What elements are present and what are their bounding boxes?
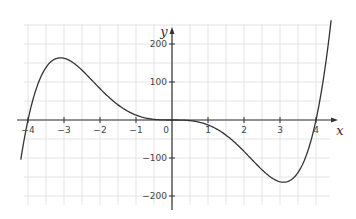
x-tick-label: −3 xyxy=(57,125,70,135)
grid-lines xyxy=(24,24,330,205)
x-tick-label: 1 xyxy=(205,125,211,135)
x-tick-label: 2 xyxy=(241,125,247,135)
x-tick-label: −4 xyxy=(21,125,35,135)
axes xyxy=(17,27,338,210)
y-tick-label: 100 xyxy=(150,77,167,87)
x-tick-label: 0 xyxy=(163,125,169,135)
x-tick-label: −2 xyxy=(93,125,106,135)
y-axis-label: y xyxy=(159,24,168,39)
y-tick-label: 200 xyxy=(150,39,167,49)
function-graph: −4−3−2−101234−200−100100200 x y xyxy=(0,0,356,219)
x-axis-label: x xyxy=(336,123,344,138)
y-tick-label: −200 xyxy=(142,191,167,201)
y-tick-label: −100 xyxy=(142,153,167,163)
x-axis-arrow-icon xyxy=(331,118,338,123)
x-tick-label: 4 xyxy=(313,125,319,135)
x-tick-label: 3 xyxy=(277,125,283,135)
y-axis-arrow-icon xyxy=(170,27,175,34)
x-tick-label: −1 xyxy=(129,125,142,135)
